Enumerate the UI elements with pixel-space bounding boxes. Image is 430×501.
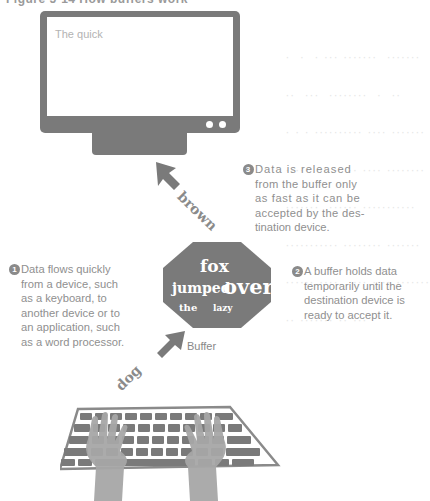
buffer-word-jumped: jumped	[172, 280, 231, 296]
arrow-word-dog: dog	[112, 362, 144, 394]
buffer-word-fox: fox	[200, 256, 229, 276]
buffer-label: Buffer	[187, 340, 216, 352]
step-number-badge: 1	[9, 264, 20, 275]
buffer-word-lazy: lazy	[213, 303, 233, 313]
monitor-stand	[92, 133, 187, 155]
monitor-button-icon	[219, 121, 226, 128]
monitor-button-icon	[206, 121, 213, 128]
buffer-word-over: over	[223, 274, 274, 299]
step-3-note: 3Data is released from the buffer only a…	[243, 162, 403, 235]
step-number-badge: 3	[243, 164, 254, 175]
screen-text: The quick	[55, 28, 103, 40]
keyboard-with-hands-icon	[60, 405, 300, 501]
buffer-word-the: the	[179, 302, 197, 313]
step-2-note: 2A buffer holds data temporarily until t…	[292, 264, 422, 322]
step-number-badge: 2	[292, 266, 303, 277]
arrow-up-right-icon	[150, 328, 190, 368]
figure-title: Figure 5-14 How buffers work	[6, 0, 188, 6]
step-1-note: 1Data flows quickly from a device, such …	[9, 262, 149, 349]
